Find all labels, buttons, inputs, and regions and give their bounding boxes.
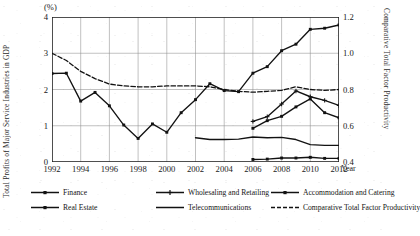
data-point	[323, 111, 326, 114]
data-point	[295, 105, 298, 108]
data-point	[338, 24, 339, 27]
legend-item-real-estate[interactable]: Real Estate	[30, 203, 97, 212]
data-point	[65, 72, 68, 75]
legend-swatch-line	[155, 203, 185, 212]
data-point	[266, 65, 269, 68]
data-point	[266, 119, 269, 122]
data-point	[309, 97, 312, 100]
legend-row-1: FinanceWholesaling and RetailingAccommod…	[30, 186, 386, 201]
data-point	[79, 100, 82, 103]
x-axis-tick: 2010	[302, 164, 319, 174]
data-point	[323, 27, 326, 30]
legend-item-finance[interactable]: Finance	[30, 188, 87, 197]
right-axis-title: Comparative Total Factor Productivity	[382, 8, 391, 173]
data-point	[137, 137, 140, 140]
legend-label: Accommodation and Catering	[303, 188, 395, 197]
legend-item-comparative-total-factor-productivity[interactable]: Comparative Total Factor Productivity	[270, 203, 420, 212]
right-axis-tick: 1.2	[343, 12, 354, 22]
legend-label: Finance	[63, 188, 87, 197]
x-axis-tick: 2004	[216, 164, 233, 174]
x-axis-tick: 2006	[244, 164, 261, 174]
legend-marker	[155, 203, 185, 212]
right-axis-tick: 1.0	[343, 48, 354, 58]
x-axis-tick: 1994	[72, 164, 89, 174]
data-point	[295, 43, 298, 46]
data-point	[194, 98, 197, 101]
x-axis-tick: 2000	[158, 164, 175, 174]
data-point	[122, 124, 125, 127]
legend-item-accommodation-and-catering[interactable]: Accommodation and Catering	[270, 188, 395, 197]
left-axis-tick: 3	[44, 48, 48, 58]
x-axis-tick: 1996	[101, 164, 118, 174]
unit-note: (%)	[44, 2, 57, 12]
legend-marker	[155, 188, 185, 197]
data-point	[108, 104, 111, 107]
series-telecommunications	[196, 137, 340, 145]
data-point	[309, 156, 312, 159]
chart-plot-area	[52, 17, 339, 162]
legend-marker	[30, 203, 60, 212]
data-point	[266, 158, 269, 161]
x-axis-tick: 1992	[43, 164, 60, 174]
right-axis-tick: 0.8	[343, 85, 354, 95]
data-point	[251, 72, 254, 75]
legend-item-telecommunications[interactable]: Telecommunications	[155, 203, 251, 212]
left-axis-tick: 1	[44, 121, 48, 131]
legend-swatch-line	[270, 188, 300, 197]
data-point	[280, 115, 283, 118]
data-point	[251, 127, 254, 130]
legend-label: Wholesaling and Retailing	[188, 188, 269, 197]
legend-swatch-line	[155, 188, 185, 197]
right-axis-tick: 0.6	[343, 121, 354, 131]
x-axis-tick: 2002	[187, 164, 204, 174]
chart-svg	[52, 17, 339, 162]
x-axis-tick-labels: 1992199419961998200020022004200620082010…	[52, 164, 339, 178]
data-point	[94, 91, 97, 94]
left-axis-title: Total Profits of Major Service Industrie…	[2, 8, 11, 198]
right-axis-tick-labels: 0.40.60.81.01.2	[341, 17, 367, 162]
data-point	[280, 157, 283, 160]
left-axis-tick-labels: 01234	[30, 17, 50, 162]
series-accommodation-and-catering	[251, 156, 339, 161]
data-point	[251, 158, 254, 161]
data-point	[309, 28, 312, 31]
data-point	[52, 72, 53, 75]
legend-label: Comparative Total Factor Productivity	[303, 203, 420, 212]
legend-swatch-line	[30, 203, 60, 212]
data-point	[280, 49, 283, 52]
x-axis-tick: 1998	[130, 164, 147, 174]
data-point	[208, 82, 211, 85]
legend-label: Real Estate	[63, 203, 97, 212]
data-point	[165, 131, 168, 134]
legend-marker	[30, 188, 60, 197]
legend-marker	[270, 188, 300, 197]
legend-item-wholesaling-and-retailing[interactable]: Wholesaling and Retailing	[155, 188, 269, 197]
legend-marker	[270, 203, 300, 212]
series-real-estate	[251, 97, 339, 129]
legend-swatch-dashed-line	[270, 203, 300, 212]
chart-legend: FinanceWholesaling and RetailingAccommod…	[30, 186, 386, 220]
data-point	[151, 122, 154, 125]
legend-swatch-line	[30, 188, 60, 197]
data-point	[295, 157, 298, 160]
left-axis-tick: 4	[44, 12, 48, 22]
legend-row-2: Real EstateTelecommunicationsComparative…	[30, 201, 386, 216]
left-axis-tick: 2	[44, 85, 48, 95]
data-point	[338, 157, 339, 160]
data-point	[338, 116, 339, 119]
x-axis-unit-label: Year	[341, 164, 356, 173]
data-point	[180, 111, 183, 114]
legend-label: Telecommunications	[188, 203, 251, 212]
x-axis-tick: 2008	[273, 164, 290, 174]
data-point	[323, 157, 326, 160]
